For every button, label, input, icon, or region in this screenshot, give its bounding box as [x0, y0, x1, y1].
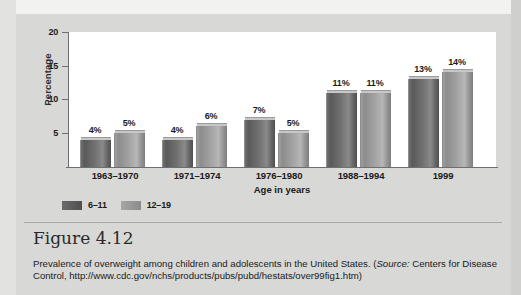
bar-value-1971-1974-12-19: 6% [191, 111, 231, 121]
bar-top-face [361, 90, 391, 93]
chart-legend: 6–11 12–19 [62, 200, 171, 210]
bar-top-face [163, 137, 193, 140]
y-tick-label-10: 10 [30, 94, 58, 104]
x-tick-label-1976-1980: 1976–1980 [234, 170, 324, 181]
bar-top-face [409, 76, 439, 79]
bar-chart: Percentage 20 15 10 5 4% 5% 1963–1970 [24, 20, 502, 190]
legend-swatch-icon-6-11 [62, 201, 82, 210]
page-left-margin [0, 0, 16, 295]
caption-line1: Prevalence of overweight among children … [33, 258, 376, 269]
y-tick-label-5: 5 [30, 128, 58, 138]
bar-value-1963-1970-12-19: 5% [109, 118, 149, 128]
bar-value-1971-1974-6-11: 4% [157, 125, 197, 135]
figure-page: Percentage 20 15 10 5 4% 5% 1963–1970 [0, 0, 521, 295]
legend-label-6-11: 6–11 [88, 200, 107, 210]
bar-top-face [279, 130, 309, 133]
bar-top-face [81, 137, 111, 140]
legend-label-12-19: 12–19 [147, 200, 171, 210]
x-tick-label-1971-1974: 1971–1974 [152, 170, 242, 181]
bar-top-face [115, 130, 145, 133]
y-tick-10 [62, 99, 69, 100]
y-tick-15 [62, 66, 69, 67]
bar-group-1963-1970: 4% 5% [76, 32, 152, 167]
bar-top-face [245, 117, 275, 120]
bar-value-1976-1980-12-19: 5% [273, 118, 313, 128]
bar-group-1971-1974: 4% 6% [158, 32, 234, 167]
y-tick-label-15: 15 [30, 61, 58, 71]
y-tick-label-20: 20 [30, 27, 58, 37]
legend-swatch-icon-12-19 [121, 201, 141, 210]
page-top-margin [0, 0, 521, 14]
bar-top-face [197, 123, 227, 126]
x-tick-label-1963-1970: 1963–1970 [70, 170, 160, 181]
bar-top-face [327, 90, 357, 93]
x-axis-line [66, 167, 498, 168]
x-tick-label-1999: 1999 [398, 170, 488, 181]
bar-group-1976-1980: 7% 5% [240, 32, 316, 167]
y-tick-5 [62, 133, 69, 134]
legend-item-6-11[interactable]: 6–11 [62, 200, 107, 210]
figure-caption: Prevalence of overweight among children … [33, 258, 503, 282]
x-tick-label-1988-1994: 1988–1994 [316, 170, 406, 181]
bar-value-1999-12-19: 14% [437, 57, 477, 67]
figure-number-title: Figure 4.12 [33, 228, 134, 248]
bar-group-1988-1994: 11% 11% [322, 32, 398, 167]
x-axis-title: Age in years [68, 184, 496, 195]
page-right-margin [511, 0, 521, 295]
bar-group-1999: 13% 14% [404, 32, 480, 167]
caption-source-word: Source: [376, 258, 409, 269]
y-tick-20 [62, 32, 69, 33]
legend-item-12-19[interactable]: 12–19 [121, 200, 171, 210]
bar-value-1988-1994-12-19: 11% [355, 78, 395, 88]
bar-top-face [443, 69, 473, 72]
bar-value-1976-1980-6-11: 7% [239, 105, 279, 115]
caption-divider [24, 222, 502, 223]
y-axis-title: Percentage [42, 35, 53, 125]
y-axis-line [68, 32, 69, 168]
